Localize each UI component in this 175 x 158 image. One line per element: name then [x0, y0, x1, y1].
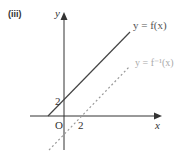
f-inverse-line [49, 66, 130, 150]
x-intercept-label: 2 [78, 120, 84, 131]
y-axis-arrow-icon [61, 12, 68, 20]
y-intercept-label: 2 [55, 96, 61, 107]
y-axis-label: y [55, 8, 60, 19]
origin-label: O [55, 120, 63, 131]
x-axis-label: x [155, 120, 160, 131]
part-label: (iii) [8, 10, 22, 19]
f-inverse-curve-label: y = f⁻¹(x) [135, 58, 174, 68]
f-curve-label: y = f(x) [133, 20, 167, 31]
